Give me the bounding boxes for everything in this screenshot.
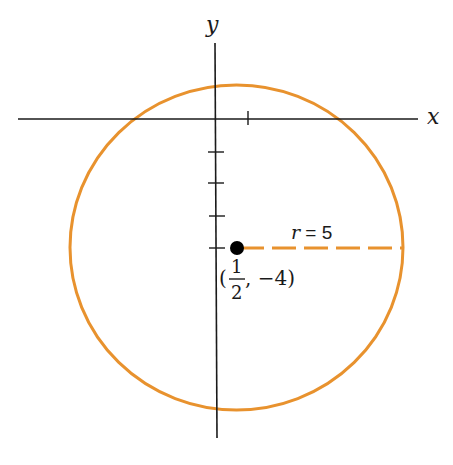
center-label-open: (	[219, 266, 227, 290]
y-axis	[215, 43, 217, 438]
center-point	[230, 241, 244, 255]
radius-label: r = 5	[291, 221, 332, 243]
x-axis-label: x	[427, 104, 440, 129]
center-label-denominator: 2	[231, 282, 242, 303]
y-axis-label: y	[205, 12, 219, 37]
diagram-canvas: y x r = 5 ( 1 2 , −4)	[0, 0, 453, 465]
center-label-rest: , −4)	[245, 266, 295, 290]
center-label: ( 1 2 , −4)	[219, 256, 295, 303]
center-label-numerator: 1	[231, 256, 242, 277]
